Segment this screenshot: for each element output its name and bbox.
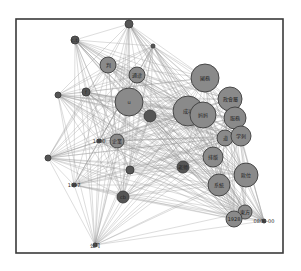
- edge: [75, 40, 153, 46]
- graph-node: 妈妈: [190, 102, 216, 128]
- graph-node: 系統: [208, 174, 230, 196]
- node-label: 排版: [208, 154, 218, 161]
- graph-node: 歐位: [234, 163, 258, 187]
- node-label: 國務: [200, 75, 210, 82]
- graph-node: [55, 92, 61, 98]
- node-label: 服務: [230, 115, 240, 122]
- graph-node: 公司: [90, 242, 100, 248]
- graph-node: 國務: [191, 64, 219, 92]
- node-circle: [151, 44, 155, 48]
- graph-node: c.t.: [71, 36, 79, 44]
- node-label: u: [127, 99, 130, 105]
- node-circle: [45, 155, 51, 161]
- node-label: c.t.: [71, 37, 79, 43]
- edge: [95, 170, 130, 245]
- node-label: 老师: [178, 164, 188, 171]
- node-label: 公司: [90, 242, 100, 248]
- graph-node: f: [82, 88, 90, 96]
- graph-node: 1928: [226, 211, 242, 227]
- graph-node: 判: [100, 57, 116, 73]
- node-label: 判: [106, 62, 111, 69]
- graph-node: 学刺: [231, 126, 251, 146]
- node-circle: [126, 166, 134, 174]
- node-label: 1928: [228, 216, 241, 222]
- node-label: 0806-00: [254, 218, 275, 224]
- node-circle: [144, 110, 156, 122]
- node-label: 道: [223, 135, 228, 142]
- graph-node: cb: [117, 191, 129, 203]
- node-circle: [125, 20, 133, 28]
- node-label: 企業: [112, 138, 122, 145]
- graph-node: 1997: [68, 182, 81, 188]
- graph-node: 0806-00: [254, 218, 275, 224]
- node-label: 政會屬: [223, 96, 238, 103]
- graph-node: 道: [217, 130, 233, 146]
- node-label: 1000: [93, 138, 106, 144]
- node-label: f: [85, 89, 87, 95]
- edge: [48, 141, 99, 158]
- graph-node: u: [115, 88, 143, 116]
- edge: [58, 95, 74, 185]
- node-label: 通途: [132, 72, 142, 79]
- edge: [95, 197, 123, 245]
- graph-node: 通途: [129, 67, 145, 83]
- node-label: 東方: [240, 209, 250, 216]
- edge: [58, 95, 95, 245]
- graph-node: 企業: [110, 134, 124, 148]
- network-graph: c.t.判通途fu國務成功妈妈政會屬服務道学刺排版歐位系統東方19280806-…: [0, 0, 301, 271]
- graph-node: 1000: [93, 138, 106, 144]
- node-label: 1997: [68, 182, 81, 188]
- graph-node: [45, 155, 51, 161]
- node-label: 妈妈: [198, 112, 208, 119]
- graph-node: [144, 110, 156, 122]
- graph-node: [151, 44, 155, 48]
- node-label: 学刺: [236, 133, 246, 140]
- graph-node: [125, 20, 133, 28]
- node-circle: [55, 92, 61, 98]
- graph-node: 老师: [177, 161, 189, 173]
- node-label: 系統: [214, 182, 224, 189]
- graph-node: [126, 166, 134, 174]
- node-label: 歐位: [241, 172, 251, 179]
- node-label: cb: [120, 194, 126, 200]
- graph-node: 排版: [203, 147, 223, 167]
